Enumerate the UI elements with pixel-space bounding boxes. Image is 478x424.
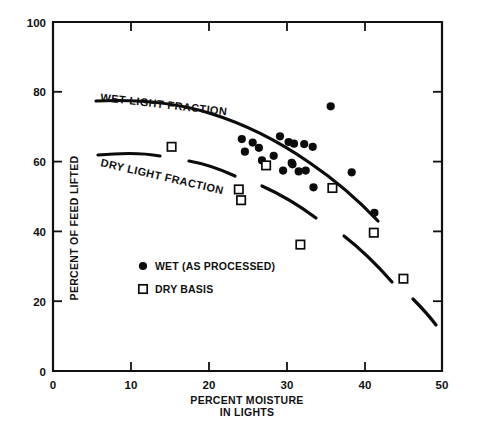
data-point-wet: [302, 167, 310, 175]
y-tick-label-20: 20: [33, 296, 46, 308]
data-point-wet: [238, 135, 246, 143]
x-tick-label-20: 20: [203, 379, 216, 391]
data-point-wet: [279, 167, 287, 175]
data-point-dry: [235, 185, 243, 193]
legend-marker-open-square-icon: [139, 285, 147, 293]
data-point-dry: [399, 275, 407, 283]
data-point-wet: [288, 160, 296, 168]
legend-marker-filled-circle-icon: [139, 262, 147, 270]
data-point-wet: [300, 140, 308, 148]
y-tick-label-40: 40: [33, 226, 46, 238]
x-tick-label-40: 40: [359, 379, 372, 391]
chart-figure: 0 20 40 60 80 100 0: [0, 0, 478, 424]
x-axis-title-line2: IN LIGHTS: [220, 406, 275, 418]
data-point-dry: [167, 143, 175, 151]
x-tick-label-30: 30: [281, 379, 294, 391]
y-axis-title: PERCENT OF FEED LIFTED: [68, 155, 80, 300]
data-point-wet: [327, 102, 335, 110]
data-point-wet: [255, 144, 263, 152]
data-point-wet: [290, 140, 298, 148]
data-point-wet: [276, 132, 284, 140]
data-point-dry: [237, 196, 245, 204]
data-point-wet: [309, 183, 317, 191]
y-tick-label-0: 0: [40, 366, 46, 378]
y-tick-label-80: 80: [33, 86, 46, 98]
x-axis-title-line1: PERCENT MOISTURE: [190, 394, 303, 406]
legend-label-wet: WET (AS PROCESSED): [155, 260, 275, 272]
data-point-dry: [328, 184, 336, 192]
data-point-wet: [270, 152, 278, 160]
legend-label-dry: DRY BASIS: [155, 283, 213, 295]
scatter-plot: 0 20 40 60 80 100 0: [0, 0, 478, 424]
x-tick-label-0: 0: [50, 379, 56, 391]
data-point-wet: [348, 168, 356, 176]
data-point-wet: [295, 167, 303, 175]
y-tick-label-100: 100: [27, 17, 46, 29]
data-point-wet: [241, 148, 249, 156]
data-point-wet: [309, 143, 317, 151]
data-point-dry: [370, 229, 378, 237]
y-tick-label-60: 60: [33, 156, 46, 168]
x-tick-label-10: 10: [125, 379, 138, 391]
data-point-dry: [296, 240, 304, 248]
data-point-wet: [370, 209, 378, 217]
x-tick-label-50: 50: [436, 379, 449, 391]
data-point-dry: [262, 161, 270, 169]
